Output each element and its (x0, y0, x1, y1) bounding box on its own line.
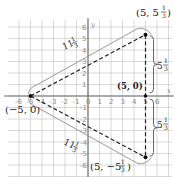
vertex-top-label-main: (5, 5 (136, 7, 159, 18)
lower-vertical-whole: 5 (157, 120, 163, 130)
vertex-bottom-label-main: (5, −5 (90, 161, 121, 172)
upper-slant-den: 3 (73, 41, 80, 49)
y-tick-label: 6 (82, 24, 87, 32)
y-tick-label: -5 (80, 150, 87, 158)
y-tick-label: 4 (82, 47, 87, 55)
y-tick-label: -3 (80, 127, 87, 135)
vertex-top-label: (5, 5 1 3 ) (136, 4, 171, 19)
vertex-bottom-frac-num: 1 (121, 158, 125, 165)
x-tick-label: 2 (109, 98, 113, 106)
lower-vertical-length: 5 1 3 (157, 116, 168, 131)
vertex-left (29, 94, 33, 98)
x-tick-label: -2 (61, 98, 68, 106)
triangle-diagram: xy -6-5-4-3-2-10123456654321-1-2-3-4-5-6… (0, 0, 178, 177)
foot-point-label: (5, 0) (117, 81, 143, 92)
upper-vertical-length: 5 1 3 (157, 57, 168, 72)
y-tick-label: 5 (82, 35, 86, 43)
y-tick-label: -4 (80, 139, 88, 147)
y-tick-label: -1 (80, 104, 87, 112)
x-tick-label: 3 (121, 98, 125, 106)
vertex-top-label-close: ) (167, 7, 171, 18)
lower-slant-length: 11 1 3 (61, 135, 81, 154)
x-tick-label: 6 (155, 98, 160, 106)
y-tick-label: 2 (82, 70, 86, 78)
x-axis-name: x (167, 87, 171, 95)
vertex-bottom-label: (5, −5 1 3 ) (90, 158, 131, 173)
x-tick-label: -3 (50, 98, 57, 106)
y-tick-label: 1 (82, 81, 86, 89)
vertex-bottom-label-close: ) (127, 161, 131, 172)
vertex-top (144, 33, 148, 37)
lower-vertical-den: 3 (164, 124, 168, 131)
vertex-top-frac-den: 3 (162, 12, 166, 19)
x-tick-label: -1 (73, 98, 80, 106)
vertex-top-frac-num: 1 (162, 4, 166, 11)
lower-vertical-num: 1 (164, 116, 168, 123)
upper-vertical-num: 1 (164, 57, 168, 64)
x-tick-label: 1 (98, 98, 102, 106)
lower-side-outline (29, 98, 152, 164)
y-tick-label: -2 (80, 116, 87, 124)
vertex-bottom-frac-den: 3 (121, 166, 125, 173)
vertex-left-label: (−5, 0) (5, 104, 40, 115)
y-tick-label: -6 (80, 162, 88, 170)
y-axis-name: y (90, 21, 96, 29)
vertex-bottom (144, 155, 148, 159)
upper-vertical-whole: 5 (157, 61, 163, 71)
foot-point (144, 94, 148, 98)
x-tick-label: 4 (132, 98, 137, 106)
upper-vertical-den: 3 (164, 65, 168, 72)
